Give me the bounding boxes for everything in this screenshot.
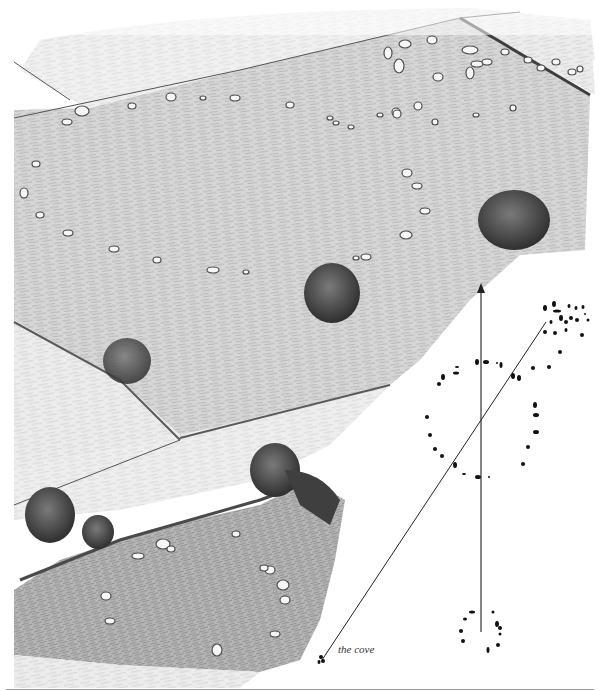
bottom-rule <box>6 689 594 690</box>
illustration: the cove <box>0 0 601 691</box>
tree-icon <box>250 443 300 497</box>
tree-icon <box>82 515 114 549</box>
tree-icon <box>304 263 360 323</box>
tree-icon <box>103 338 151 384</box>
stone-circle-drawing <box>0 0 601 691</box>
tree-icon <box>25 487 75 543</box>
tree-icon <box>478 190 550 250</box>
cove-label: the cove <box>338 643 374 655</box>
